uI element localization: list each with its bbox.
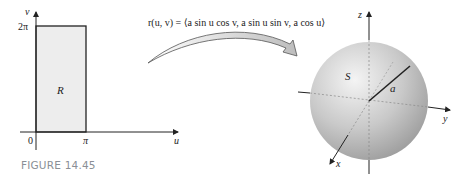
y-axis [428, 107, 450, 110]
figure-14-45: v 2π 0 π u R z y x S a r(u, v) = ⟨a sin … [0, 0, 470, 181]
surface-plot [298, 12, 450, 174]
x-axis-label: x [335, 158, 341, 169]
region-label: R [56, 84, 64, 96]
figure-caption: FIGURE 14.45 [21, 159, 96, 171]
parametrization-formula: r(u, v) = ⟨a sin u cos v, a sin u sin v,… [148, 17, 325, 28]
region-r [36, 26, 86, 132]
y-axis-label: y [442, 113, 448, 124]
z-axis-label: z [357, 9, 362, 20]
origin-label: 0 [28, 135, 33, 146]
domain-plot [20, 12, 178, 150]
surface-label: S [345, 70, 351, 82]
u-tick-label: π [83, 135, 89, 146]
mapping-arrow [148, 32, 297, 63]
v-tick-label: 2π [18, 21, 28, 32]
v-axis-label: v [25, 6, 30, 17]
u-axis-label: u [174, 135, 179, 146]
radius-label: a [390, 82, 396, 94]
